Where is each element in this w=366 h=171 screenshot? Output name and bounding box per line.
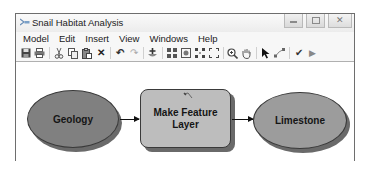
maximize-button[interactable]	[306, 14, 325, 28]
toolbar-separator	[162, 47, 163, 59]
close-icon: ✕	[336, 15, 344, 25]
delete-icon: ✕	[97, 47, 105, 59]
toolbar-separator	[289, 47, 290, 59]
full-extent-button[interactable]	[180, 47, 191, 59]
paste-button[interactable]	[81, 47, 92, 59]
connect-icon	[274, 48, 285, 58]
minimize-icon	[290, 21, 297, 23]
validate-icon: ✔	[295, 47, 303, 59]
model-canvas[interactable]: Geology Make Feature Layer Limestone	[16, 62, 354, 161]
menu-windows[interactable]: Windows	[144, 32, 193, 45]
pan-icon	[241, 48, 252, 59]
connect-button[interactable]	[274, 47, 285, 59]
minimize-button[interactable]	[284, 14, 303, 28]
cut-button[interactable]	[53, 47, 64, 59]
run-icon: ▶	[309, 47, 316, 59]
undo-icon: ↶	[116, 47, 124, 59]
add-data-button[interactable]	[147, 47, 158, 59]
auto-layout-button[interactable]	[166, 47, 177, 59]
fixed-zoom-in-icon	[195, 48, 205, 58]
element-label-line2: Layer	[154, 119, 218, 131]
redo-button[interactable]: ↷	[128, 47, 139, 59]
print-button[interactable]	[34, 47, 45, 59]
connector-arrow[interactable]	[232, 119, 253, 120]
run-button[interactable]: ▶	[307, 47, 318, 59]
menu-insert[interactable]: Insert	[80, 32, 114, 45]
print-icon	[34, 48, 45, 58]
undo-button[interactable]: ↶	[114, 47, 125, 59]
toolbar-separator	[223, 47, 224, 59]
title-bar[interactable]: Snail Habitat Analysis ✕	[16, 14, 354, 32]
zoom-in-icon	[227, 48, 238, 59]
copy-icon	[68, 48, 78, 59]
auto-layout-icon	[167, 48, 177, 58]
maximize-icon	[312, 17, 320, 24]
toolbar: ✕ ↶ ↷	[16, 45, 354, 62]
redo-icon: ↷	[130, 47, 138, 59]
fixed-zoom-out-button[interactable]	[208, 47, 219, 59]
toolbar-separator	[256, 47, 257, 59]
select-icon	[261, 48, 271, 59]
tool-element-make-feature-layer[interactable]: Make Feature Layer	[140, 89, 231, 148]
save-button[interactable]	[20, 47, 31, 59]
delete-button[interactable]: ✕	[95, 47, 106, 59]
window-controls: ✕	[281, 14, 352, 30]
input-data-element-geology[interactable]: Geology	[27, 90, 119, 148]
element-label: Limestone	[275, 115, 325, 126]
full-extent-icon	[181, 48, 191, 58]
menu-view[interactable]: View	[114, 32, 144, 45]
save-icon	[21, 48, 31, 58]
element-label: Geology	[53, 114, 93, 125]
toolbar-separator	[110, 47, 111, 59]
menu-help[interactable]: Help	[193, 32, 223, 45]
toolbar-separator	[49, 47, 50, 59]
paste-icon	[82, 48, 92, 59]
output-data-element-limestone[interactable]: Limestone	[253, 92, 347, 149]
element-label-line1: Make Feature	[154, 107, 218, 119]
connector-arrow[interactable]	[120, 119, 139, 120]
copy-button[interactable]	[67, 47, 78, 59]
fixed-zoom-in-button[interactable]	[194, 47, 205, 59]
toolbar-separator	[143, 47, 144, 59]
fixed-zoom-out-icon	[209, 48, 219, 58]
window-title: Snail Habitat Analysis	[32, 17, 123, 28]
zoom-in-button[interactable]	[227, 47, 238, 59]
model-builder-icon	[20, 18, 30, 27]
close-button[interactable]: ✕	[328, 14, 352, 28]
menu-edit[interactable]: Edit	[54, 32, 80, 45]
select-button[interactable]	[260, 47, 271, 59]
pan-button[interactable]	[241, 47, 252, 59]
add-data-icon	[147, 48, 158, 59]
hammer-icon	[183, 92, 193, 100]
menu-bar: Model Edit Insert View Windows Help	[16, 32, 354, 45]
menu-model[interactable]: Model	[16, 32, 54, 45]
element-label: Make Feature Layer	[154, 107, 218, 131]
validate-button[interactable]: ✔	[293, 47, 304, 59]
model-builder-window: Snail Habitat Analysis ✕ Model Edit Inse…	[15, 13, 355, 161]
cut-icon	[54, 48, 64, 59]
